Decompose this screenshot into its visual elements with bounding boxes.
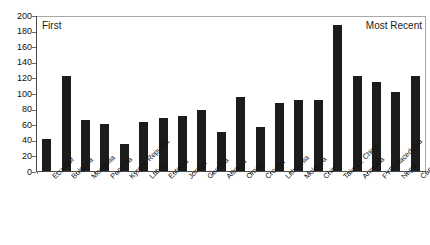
x-tick-label: Georgia <box>206 175 212 181</box>
x-tick-label: Estonia <box>167 175 173 181</box>
x-tick-label: Jordan <box>187 175 193 181</box>
y-tick-label: 200 <box>17 12 32 21</box>
y-tick-label: 100 <box>17 90 32 99</box>
bar-chart: 200180160140120100806040200 First Most R… <box>0 0 430 245</box>
x-tick-label: Moldova <box>303 175 309 181</box>
x-tick-label: Mongolia <box>90 175 96 181</box>
x-tick-label: Panama <box>109 175 115 181</box>
y-tick-mark <box>32 172 36 173</box>
x-tick-label: Albania <box>225 175 231 181</box>
x-tick-label: Lithuania <box>284 175 290 181</box>
x-axis-labels: EcuadorBulgariaMongoliaPanamaKyrgyz Repu… <box>37 175 430 245</box>
x-tick-label: Bulgaria <box>70 175 76 181</box>
y-tick-label: 20 <box>22 152 32 161</box>
bar <box>333 25 342 171</box>
x-tick-label: Latvia <box>148 175 154 181</box>
x-tick-label: Oman <box>245 175 251 181</box>
x-tick-label: Croatia <box>264 175 270 181</box>
x-tick-label: Ecuador <box>51 175 57 181</box>
y-tick-label: 60 <box>22 121 32 130</box>
y-tick-label: 80 <box>22 105 32 114</box>
y-tick-label: 180 <box>17 27 32 36</box>
y-tick-label: 160 <box>17 43 32 52</box>
y-tick-label: 140 <box>17 58 32 67</box>
x-tick-label: China <box>322 175 328 181</box>
y-tick-label: 120 <box>17 74 32 83</box>
bar <box>42 139 51 171</box>
x-tick-label: Taiwan, China <box>342 175 348 181</box>
x-tick-label: Kyrgyz Republic <box>128 175 134 181</box>
x-tick-label: Cambodia <box>419 175 425 181</box>
x-tick-label: Nepal <box>400 175 406 181</box>
x-tick-label: Armenia <box>361 175 367 181</box>
x-tick-mark <box>37 171 38 174</box>
y-tick-label: 40 <box>22 136 32 145</box>
x-tick-label: FYR Macedonia <box>381 175 387 181</box>
bar <box>411 76 420 171</box>
y-axis: 200180160140120100806040200 <box>0 10 40 176</box>
